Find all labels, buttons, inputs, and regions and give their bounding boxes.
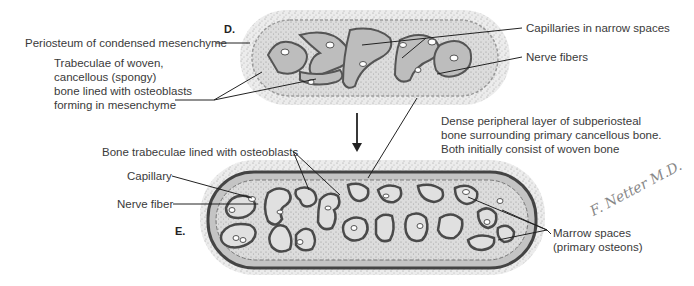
label-marrow-line-1: Marrow spaces (553, 227, 631, 240)
label-dense-layer-line-3: Both initially consist of woven bone (441, 143, 619, 156)
label-dense-layer-line-2: bone surrounding primary cancellous bone… (441, 129, 662, 142)
label-nerve-fiber: Nerve fiber (117, 198, 173, 211)
label-nerve-fibers: Nerve fibers (526, 51, 588, 64)
label-trabeculae-line-3: bone lined with osteoblasts (54, 85, 192, 98)
label-bone-trabeculae: Bone trabeculae lined with osteoblasts (102, 146, 298, 159)
leader-marrow-d (547, 230, 551, 234)
label-trabeculae-line-1: Trabeculae of woven, (54, 57, 164, 70)
label-periosteum: Periosteum of condensed mesenchyme (25, 37, 227, 50)
label-capillary: Capillary (127, 170, 172, 183)
label-trabeculae-line-2: cancellous (spongy) (54, 71, 156, 84)
down-arrow (352, 113, 362, 152)
panel-d-letter: D. (224, 23, 235, 35)
label-dense-layer-line-1: Dense peripheral layer of subperiosteal (441, 115, 641, 128)
figure-canvas: D. E. Periosteum of condensed mesenchyme… (0, 0, 694, 286)
label-trabeculae-line-4: forming in mesenchyme (54, 99, 176, 112)
label-marrow-line-2: (primary osteons) (553, 241, 642, 254)
panel-e-letter: E. (175, 225, 185, 237)
label-capillaries: Capillaries in narrow spaces (526, 22, 670, 35)
